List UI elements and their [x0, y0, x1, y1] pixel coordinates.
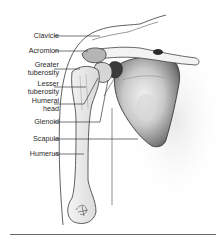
humerus-shape — [68, 66, 100, 223]
label-clavicle: Clavicle — [34, 32, 59, 40]
anatomy-illustration — [0, 0, 218, 241]
shoulder-anatomy-diagram: Clavicle Acromion Greater tuberosity Les… — [0, 0, 218, 241]
label-humeral-head: Humeral head — [32, 97, 59, 112]
label-greater-tuberosity: Greater tuberosity — [28, 61, 59, 76]
label-glenoid: Glenoid — [34, 118, 59, 126]
label-humerus: Humerus — [30, 150, 59, 158]
label-acromion: Acromion — [29, 47, 59, 55]
acromion-shape — [82, 48, 106, 63]
label-scapula: Scapula — [33, 135, 59, 143]
label-lesser-tuberosity: Lesser tuberosity — [28, 80, 59, 95]
bottom-divider — [10, 234, 216, 235]
